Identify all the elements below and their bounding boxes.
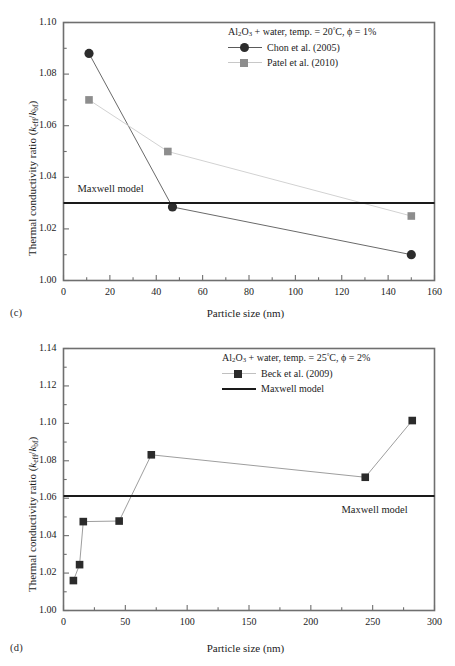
x-tick-label: 300: [415, 616, 455, 627]
x-axis-title-c: Particle size (nm): [18, 307, 455, 319]
x-tick-label: 50: [105, 616, 145, 627]
panel-c: Thermal conductivity ratio (keff/kbf) Pa…: [0, 0, 455, 335]
x-axis-title-d: Particle size (nm): [18, 642, 455, 654]
y-tick-label: 1.00: [16, 604, 57, 615]
legend-key-line-icon: [222, 383, 256, 394]
legend-key-square-icon: [222, 368, 256, 379]
panel-label-c: (c): [10, 307, 22, 318]
x-tick-label: 20: [90, 286, 130, 297]
x-tick-label: 60: [183, 286, 223, 297]
legend-label-patel: Patel et al. (2010): [267, 58, 338, 69]
y-tick-label: 1.10: [16, 416, 57, 427]
legend-label-beck: Beck et al. (2009): [261, 369, 333, 380]
legend-d: Al2O3 + water, temp. = 25°C, ϕ = 2% Beck…: [222, 352, 370, 397]
x-tick-label: 150: [229, 616, 269, 627]
x-tick-label: 250: [353, 616, 393, 627]
legend-c: Al2O3 + water, temp. = 20°C, ϕ = 1% Chon…: [228, 26, 376, 71]
panel-d: Thermal conductivity ratio (keff/kbf) Pa…: [0, 330, 455, 666]
x-tick-label: 160: [415, 286, 455, 297]
y-tick-label: 1.14: [16, 342, 57, 353]
x-tick-label: 40: [136, 286, 176, 297]
legend-item-beck[interactable]: Beck et al. (2009): [222, 367, 370, 380]
legend-key-circle-icon: [228, 42, 262, 53]
legend-item-maxwell[interactable]: Maxwell model: [222, 382, 370, 395]
y-tick-label: 1.08: [16, 67, 57, 78]
legend-label-maxwell: Maxwell model: [261, 384, 324, 395]
panel-label-d: (d): [10, 642, 23, 653]
y-tick-label: 1.04: [16, 170, 57, 181]
y-tick-label: 1.00: [16, 274, 57, 285]
x-tick-label: 80: [229, 286, 269, 297]
y-tick-label: 1.04: [16, 529, 57, 540]
figure-panels-c-d: Thermal conductivity ratio (keff/kbf) Pa…: [0, 0, 455, 666]
legend-condition-d: Al2O3 + water, temp. = 25°C, ϕ = 2%: [222, 352, 370, 363]
y-tick-label: 1.06: [16, 119, 57, 130]
x-tick-label: 200: [291, 616, 331, 627]
legend-condition-c: Al2O3 + water, temp. = 20°C, ϕ = 1%: [228, 26, 376, 37]
legend-label-chon: Chon et al. (2005): [267, 43, 340, 54]
y-tick-label: 1.02: [16, 566, 57, 577]
x-tick-label: 140: [368, 286, 408, 297]
maxwell-model-annotation-c: Maxwell model: [78, 183, 144, 194]
y-tick-label: 1.10: [16, 16, 57, 27]
x-tick-label: 0: [44, 616, 84, 627]
maxwell-model-annotation-d: Maxwell model: [342, 504, 408, 515]
y-tick-label: 1.02: [16, 222, 57, 233]
legend-item-patel[interactable]: Patel et al. (2010): [228, 56, 376, 69]
y-tick-label: 1.12: [16, 379, 57, 390]
x-tick-label: 100: [167, 616, 207, 627]
y-tick-label: 1.06: [16, 491, 57, 502]
x-tick-label: 0: [44, 286, 84, 297]
x-tick-label: 100: [275, 286, 315, 297]
legend-item-chon[interactable]: Chon et al. (2005): [228, 41, 376, 54]
legend-key-square-icon: [228, 57, 262, 68]
x-tick-label: 120: [322, 286, 362, 297]
y-tick-label: 1.08: [16, 454, 57, 465]
